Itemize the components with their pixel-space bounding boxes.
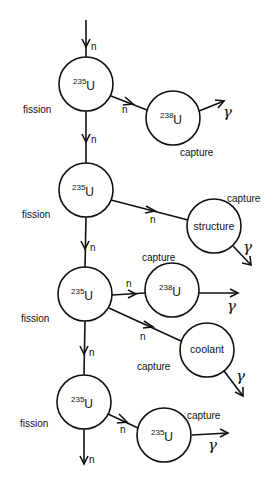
fission-label-1: fission <box>23 104 51 115</box>
incoming-neutron-label: n <box>91 41 97 52</box>
chain-reaction-diagram: n n n n n n n n n n γ γ γ γ γ 235U <box>0 0 278 488</box>
fission-node-1: 235U <box>59 57 113 111</box>
branch-neutron-label-5: n <box>120 424 126 435</box>
branch-neutron-label-2: n <box>150 214 156 225</box>
capture-label-5: capture <box>187 410 221 421</box>
element-symbol: U <box>172 285 181 299</box>
gamma-label-5: γ <box>208 436 217 454</box>
element-symbol: U <box>84 397 93 411</box>
chain-neutron-label-1: n <box>91 134 97 145</box>
gamma-line-5 <box>192 433 228 435</box>
gamma-label-3: γ <box>227 297 236 315</box>
capture-node-u238-2: 238U <box>145 263 199 317</box>
chain-line-3-4 <box>84 321 85 375</box>
element-symbol: U <box>86 79 95 93</box>
capture-node-u235: 235U <box>137 408 191 462</box>
fission-label-4: fission <box>20 418 48 429</box>
capture-label-2: capture <box>227 193 261 204</box>
element-symbol: U <box>173 113 182 127</box>
mass-number: 238 <box>160 111 174 120</box>
element-symbol: U <box>85 185 94 199</box>
mass-number: 238 <box>159 283 173 292</box>
capture-label-3: capture <box>142 252 176 263</box>
chain-neutron-label-3: n <box>89 347 95 358</box>
mass-number: 235 <box>71 395 85 404</box>
outgoing-neutron-label: n <box>89 454 95 465</box>
fission-label-2: fission <box>22 209 50 220</box>
node-text: structure <box>194 220 235 232</box>
gamma-label-1: γ <box>223 103 232 121</box>
gamma-label-4: γ <box>236 367 245 385</box>
capture-label-4: capture <box>137 361 171 372</box>
capture-label-1: capture <box>180 147 214 158</box>
capture-node-structure: structure <box>187 199 241 253</box>
fission-node-2: 235U <box>59 163 113 217</box>
element-symbol: U <box>164 430 173 444</box>
gamma-label-2: γ <box>243 238 252 256</box>
chain-line-2-3 <box>85 217 86 267</box>
node-text: coolant <box>190 343 224 355</box>
branch-neutron-label-1: n <box>122 104 128 115</box>
element-symbol: U <box>84 289 93 303</box>
mass-number: 235 <box>71 287 85 296</box>
fission-node-4: 235U <box>57 375 111 429</box>
fission-label-3: fission <box>21 313 49 324</box>
capture-node-coolant: coolant <box>180 323 234 377</box>
mass-number: 235 <box>151 428 165 437</box>
branch-line-3 <box>112 293 145 295</box>
branch-neutron-label-4: n <box>140 331 146 342</box>
mass-number: 235 <box>73 77 87 86</box>
branch-neutron-label-3: n <box>126 278 132 289</box>
mass-number: 235 <box>72 183 86 192</box>
branch-line-1 <box>111 96 147 110</box>
fission-node-3: 235U <box>58 267 112 321</box>
capture-node-u238-1: 238U <box>146 91 200 145</box>
chain-neutron-label-2: n <box>90 242 96 253</box>
